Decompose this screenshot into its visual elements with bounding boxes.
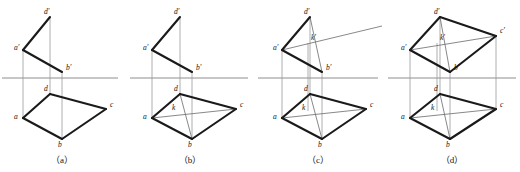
vertex-label-a-a: a [14, 112, 18, 121]
vertex-label-c-b: b [318, 140, 322, 149]
vertex-label-c-a: a [273, 112, 277, 121]
panel-b: d′a′b′dabck（b） [130, 7, 248, 165]
vertex-label-c-k_prime: k′ [311, 33, 316, 42]
edge-c-a_prime-d_prime [282, 17, 310, 50]
panel-d: d′a′b′c′k′dabck（d） [388, 7, 516, 165]
vertex-label-b-b_prime: b′ [196, 63, 202, 72]
edge-c-d-c [310, 94, 366, 109]
edge-c-c-b [322, 109, 366, 139]
panel-caption-d: （d） [441, 155, 464, 165]
vertex-label-c-d: d [304, 84, 308, 93]
panel-caption-b: （b） [179, 155, 202, 165]
vertex-label-b-k: k [172, 103, 176, 112]
edge-d-d_prime-c_prime [440, 17, 496, 36]
edge-d-b-a [410, 118, 450, 139]
edge-b-d-c [180, 94, 236, 109]
panel-caption-a: （a） [51, 155, 73, 165]
vertex-label-c-d_prime: d′ [304, 7, 310, 16]
edge-b-a-d [152, 94, 180, 118]
edge-b-a_prime-d_prime [152, 17, 180, 50]
construction-line-c-d-b [310, 94, 322, 139]
edge-c-a-d [282, 94, 310, 118]
vertex-label-b-a: a [143, 112, 147, 121]
edge-c-a_prime-b_prime [282, 50, 322, 72]
construction-line-d-a_prime-c_prime [410, 36, 496, 50]
vertex-label-d-a_prime: a′ [401, 43, 407, 52]
vertex-label-d-d: d [434, 84, 438, 93]
vertex-label-b-a_prime: a′ [143, 43, 149, 52]
edge-b-c-b [192, 109, 236, 139]
vertex-label-a-d: d [44, 84, 48, 93]
vertex-label-d-k: k [431, 103, 435, 112]
vertex-label-b-b: b [188, 140, 192, 149]
edge-b-a_prime-b_prime [152, 50, 192, 72]
edge-a-b-a [23, 118, 62, 139]
panel-a: d′a′b′dabc（a） [2, 7, 118, 165]
construction-line-b-d-b [180, 94, 192, 139]
construction-line-c-d_prime-b_prime [310, 17, 322, 72]
edge-d-d-c [440, 94, 496, 109]
vertex-label-d-c: c [500, 100, 504, 109]
vertex-label-c-k: k [302, 103, 306, 112]
vertex-label-a-c: c [110, 100, 114, 109]
edge-a-a-d [23, 94, 50, 118]
panel-caption-c: （c） [307, 155, 329, 165]
edge-d-a-d [410, 94, 440, 118]
construction-line-d-d-b [440, 94, 450, 139]
vertex-label-a-b: b [58, 140, 62, 149]
vertex-label-b-c: c [240, 100, 244, 109]
edge-a-a_prime-b_prime [23, 50, 62, 72]
edge-a-c-b [62, 109, 106, 139]
edge-d-c-b [450, 109, 496, 139]
geometry-figure: d′a′b′dabc（a）d′a′b′dabck（b）d′a′b′k′dabck… [0, 0, 520, 172]
vertex-label-c-a_prime: a′ [273, 43, 279, 52]
edge-a-a_prime-d_prime [23, 17, 50, 50]
edge-b-b-a [152, 118, 192, 139]
edge-a-d-c [50, 94, 106, 109]
vertex-label-c-b_prime: b′ [326, 63, 332, 72]
figure-canvas: d′a′b′dabc（a）d′a′b′dabck（b）d′a′b′k′dabck… [0, 0, 520, 172]
vertex-label-a-b_prime: b′ [66, 63, 72, 72]
vertex-label-d-a: a [401, 112, 405, 121]
vertex-label-d-b_prime: b′ [454, 63, 460, 72]
edge-d-b_prime-a_prime [410, 50, 450, 72]
panel-c: d′a′b′k′dabck（c） [258, 7, 382, 165]
vertex-label-c-c: c [370, 100, 374, 109]
vertex-label-d-b: b [446, 140, 450, 149]
vertex-label-a-a_prime: a′ [14, 43, 20, 52]
vertex-label-d-k_prime: k′ [440, 33, 445, 42]
vertex-label-d-c_prime: c′ [500, 26, 505, 35]
vertex-label-d-d_prime: d′ [434, 7, 440, 16]
edge-c-b-a [282, 118, 322, 139]
vertex-label-b-d: d [174, 84, 178, 93]
vertex-label-a-d_prime: d′ [44, 7, 50, 16]
vertex-label-b-d_prime: d′ [174, 7, 180, 16]
auxiliary-line-c [282, 26, 382, 50]
edge-d-a_prime-d_prime [410, 17, 440, 50]
